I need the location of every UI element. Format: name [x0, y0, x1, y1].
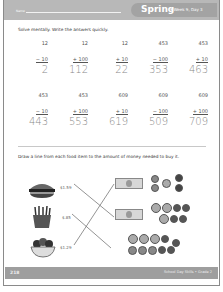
coin-icon	[172, 239, 180, 247]
coin-icon	[159, 214, 169, 224]
worksheet-page: Name Spring • Week 9, Day 3 Solve mental…	[3, 0, 220, 286]
coin-icon	[161, 235, 169, 243]
coin-icon	[162, 179, 171, 188]
coin-icon	[162, 203, 172, 213]
coin-icon	[158, 246, 166, 254]
page-number: 218	[10, 270, 19, 275]
coin-icon	[170, 215, 178, 223]
series-label: School Day Skills • Grade 2	[164, 270, 212, 274]
coin-icon	[150, 234, 160, 244]
coin-icon	[151, 175, 159, 183]
coin-icon	[128, 234, 138, 244]
page-footer: 218 School Day Skills • Grade 2	[5, 267, 218, 279]
coin-icon	[139, 234, 149, 244]
coin-icon	[138, 246, 147, 255]
coin-icon	[175, 174, 183, 182]
matching-lines	[4, 0, 221, 286]
dollar-bill-icon	[115, 178, 143, 189]
dollar-bill-icon	[115, 209, 143, 220]
coin-icon	[179, 215, 187, 223]
coin-icon	[167, 246, 175, 254]
coin-icon	[148, 246, 157, 255]
coin-icon	[151, 184, 159, 192]
coin-icon	[182, 204, 190, 212]
coin-icon	[128, 246, 137, 255]
coin-icon	[151, 203, 161, 213]
coin-icon	[175, 184, 183, 192]
coin-icon	[173, 204, 181, 212]
